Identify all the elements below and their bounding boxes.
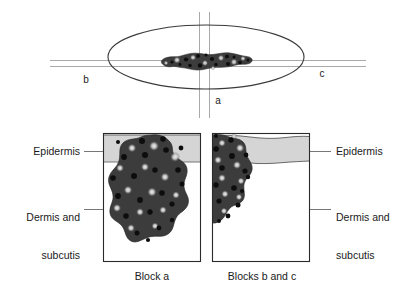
label-dermis-right-line1: Dermis and — [336, 211, 413, 224]
axis-label-c: c — [312, 68, 332, 81]
surface-lesion — [161, 53, 252, 70]
label-dermis-right: Dermis and subcutis — [336, 186, 413, 286]
block-a-group — [104, 127, 201, 262]
axis-label-a: a — [208, 95, 228, 108]
blocks-bc-group — [212, 133, 310, 262]
caption-block-a: Block a — [103, 270, 201, 283]
label-epidermis-left: Epidermis — [4, 145, 80, 158]
caption-blocks-bc: Blocks b and c — [212, 270, 312, 283]
label-dermis-left-line2: subcutis — [0, 249, 80, 262]
histology-block-sampling-diagram: b c a Epidermis Dermis and subcutis Epid… — [0, 0, 413, 298]
label-epidermis-right: Epidermis — [336, 145, 413, 158]
label-dermis-right-line2: subcutis — [336, 249, 413, 262]
label-dermis-left: Dermis and subcutis — [0, 186, 80, 286]
axis-label-b: b — [76, 74, 96, 87]
label-dermis-left-line1: Dermis and — [0, 211, 80, 224]
